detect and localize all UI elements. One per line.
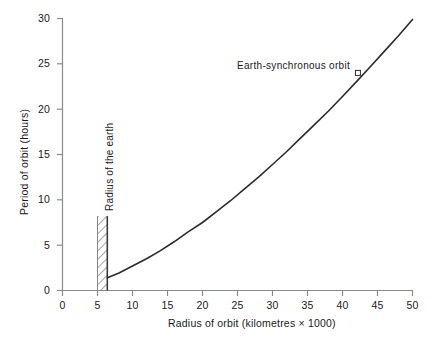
earth-synchronous-orbit-label: Earth-synchronous orbit [237, 60, 350, 71]
ytick-label-30: 30 [24, 12, 50, 24]
xtick-label-10: 10 [118, 299, 147, 311]
ytick-label-0: 0 [24, 284, 50, 296]
y-axis-title: Period of orbit (hours) [18, 109, 30, 215]
x-axis-ticks [63, 291, 413, 297]
earth-synchronous-orbit-marker [355, 70, 360, 75]
y-axis-ticks [57, 19, 63, 291]
xtick-label-30: 30 [258, 299, 287, 311]
orbital-period-curve [107, 19, 412, 277]
earth-radius-band [98, 216, 108, 290]
ytick-label-5: 5 [24, 239, 50, 251]
plot-canvas [0, 0, 441, 338]
x-axis-title: Radius of orbit (kilometres × 1000) [168, 317, 336, 329]
axis-lines [63, 18, 414, 291]
chart-figure: 30 25 20 15 10 5 0 0 5 10 15 20 25 30 35… [0, 0, 441, 338]
xtick-label-40: 40 [328, 299, 357, 311]
earth-radius-band-label: Radius of the earth [104, 123, 115, 211]
xtick-label-0: 0 [48, 299, 77, 311]
xtick-label-25: 25 [223, 299, 252, 311]
xtick-label-20: 20 [188, 299, 217, 311]
ytick-label-25: 25 [24, 57, 50, 69]
xtick-label-5: 5 [83, 299, 112, 311]
xtick-label-35: 35 [293, 299, 322, 311]
xtick-label-45: 45 [363, 299, 392, 311]
xtick-label-15: 15 [153, 299, 182, 311]
xtick-label-50: 50 [398, 299, 427, 311]
